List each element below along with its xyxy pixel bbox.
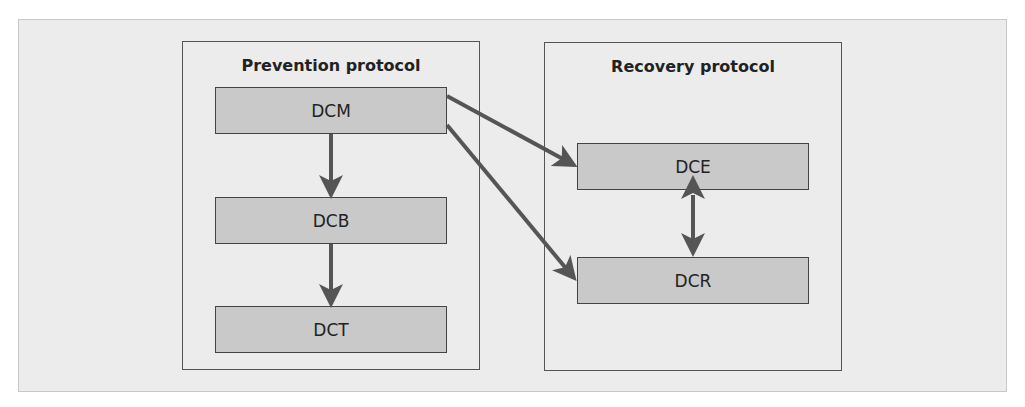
arrows-layer: [0, 0, 1025, 407]
arrow-dcm-to-dce: [447, 96, 574, 165]
arrow-dcm-to-dcr: [447, 125, 574, 278]
